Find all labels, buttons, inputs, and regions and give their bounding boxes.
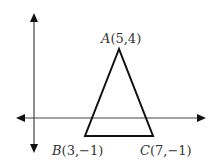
point-b-label: B(3,−1) [51, 143, 103, 158]
x-axis-left-arrow-icon [16, 114, 25, 122]
y-axis [30, 13, 38, 153]
y-axis-up-arrow-icon [30, 13, 38, 22]
point-c-label: C(7,−1) [140, 143, 192, 158]
x-axis [16, 114, 206, 122]
triangle-abc [85, 49, 153, 136]
point-a-label: A(5,4) [100, 31, 141, 46]
coordinate-diagram: A(5,4) B(3,−1) C(7,−1) [0, 0, 213, 167]
x-axis-right-arrow-icon [197, 114, 206, 122]
y-axis-down-arrow-icon [30, 144, 38, 153]
